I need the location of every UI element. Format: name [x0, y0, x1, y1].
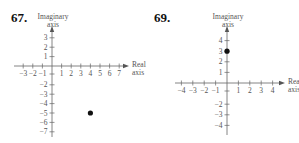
y-tick-label: −4: [215, 121, 223, 130]
imaginary-axis-label: axis: [47, 20, 59, 29]
y-tick-label: −4: [40, 99, 48, 108]
y-tick-label: −7: [40, 127, 48, 136]
x-tick-label: −1: [212, 86, 220, 95]
x-tick-label: −3: [189, 86, 197, 95]
real-axis-arrow-icon: [279, 81, 285, 85]
y-tick-label: 2: [219, 57, 223, 66]
complex-plane-charts: −3−2−11234567321−2−3−4−5−6−7Imaginaryaxi…: [0, 0, 299, 143]
y-tick-label: −2: [40, 80, 48, 89]
y-tick-label: 3: [44, 33, 48, 42]
y-tick-label: −3: [40, 90, 48, 99]
x-tick-label: 4: [89, 69, 93, 78]
x-tick-label: −4: [177, 86, 185, 95]
x-tick-label: 3: [79, 69, 83, 78]
x-tick-label: 1: [60, 69, 64, 78]
imaginary-axis-label: axis: [222, 20, 234, 29]
x-tick-label: 1: [237, 86, 241, 95]
x-tick-label: 5: [98, 69, 102, 78]
y-tick-label: 1: [219, 68, 223, 77]
complex-plane-69: −4−3−2−112344321−2−3−4ImaginaryaxisReala…: [175, 12, 299, 135]
x-tick-label: 4: [271, 86, 275, 95]
y-tick-label: 3: [219, 47, 223, 56]
x-tick-label: 3: [259, 86, 263, 95]
y-tick-label: 4: [219, 36, 223, 45]
y-tick-label: −3: [215, 110, 223, 119]
y-tick-label: −2: [215, 100, 223, 109]
x-tick-label: −1: [38, 69, 46, 78]
x-tick-label: −2: [29, 69, 37, 78]
complex-plane-67: −3−2−11234567321−2−3−4−5−6−7Imaginaryaxi…: [14, 12, 146, 137]
x-tick-label: 2: [69, 69, 73, 78]
y-tick-label: 1: [44, 52, 48, 61]
y-tick-label: −5: [40, 109, 48, 118]
x-tick-label: −3: [19, 69, 27, 78]
x-tick-label: 7: [117, 69, 121, 78]
x-tick-label: 6: [108, 69, 112, 78]
y-tick-label: −6: [40, 118, 48, 127]
plotted-point: [88, 110, 93, 115]
real-axis-arrow-icon: [123, 64, 129, 68]
x-tick-label: 2: [248, 86, 252, 95]
x-tick-label: −2: [200, 86, 208, 95]
real-axis-label: axis: [132, 68, 144, 77]
plotted-point: [224, 49, 229, 54]
y-tick-label: 2: [44, 43, 48, 52]
real-axis-label: axis: [288, 85, 299, 94]
